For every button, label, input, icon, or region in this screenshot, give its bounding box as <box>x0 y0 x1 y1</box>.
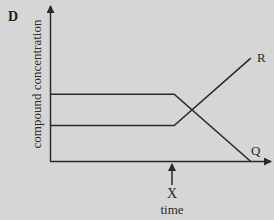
series-line-q <box>50 94 251 161</box>
series-label-q: Q <box>251 143 260 159</box>
panel-label: D <box>8 9 18 25</box>
y-axis-label: compound concentration <box>29 20 45 149</box>
series-label-r: R <box>257 50 266 66</box>
x-axis-label: time <box>160 202 183 218</box>
time-marker-label: X <box>167 186 177 202</box>
series-line-r <box>50 58 251 125</box>
